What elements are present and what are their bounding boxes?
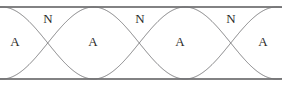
antinode-label-1: A [88,35,97,48]
node-label-2: N [226,12,235,25]
antinode-label-2: A [175,35,184,48]
antinode-label-0: A [10,35,19,48]
antinode-label-3: A [258,35,267,48]
node-label-1: N [135,12,144,25]
node-label-0: N [43,12,52,25]
standing-wave-figure: NNN AAAA [0,0,282,87]
